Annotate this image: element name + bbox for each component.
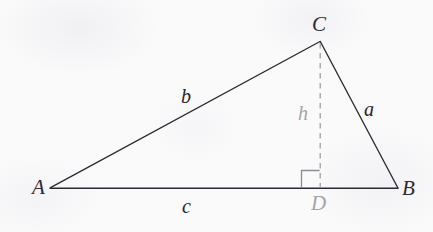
side-label-a: a <box>364 99 374 119</box>
right-angle-mark <box>302 171 320 189</box>
edge-ac-line <box>51 42 321 188</box>
side-label-c: c <box>182 196 191 216</box>
vertex-label-d: D <box>311 193 326 214</box>
altitude-label-h: h <box>298 103 308 123</box>
edge-cb-line <box>320 42 398 188</box>
side-label-b: b <box>181 86 191 106</box>
vertex-label-c: C <box>312 14 326 35</box>
vertex-label-b: B <box>402 178 415 199</box>
geometry-figure-canvas: A B C D b a c h <box>0 0 433 232</box>
vertex-label-a: A <box>32 177 45 198</box>
